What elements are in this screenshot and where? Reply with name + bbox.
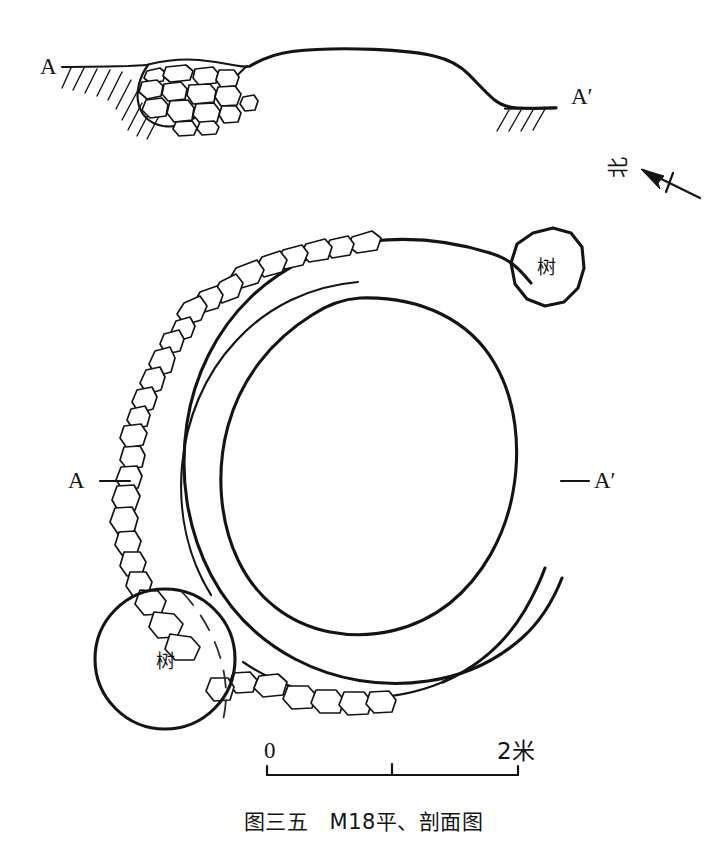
section-label-a: A: [40, 55, 57, 78]
section-fill-surface: [148, 60, 250, 67]
plan-wall-inner-face: [181, 282, 358, 595]
section-ground-left: [68, 65, 148, 67]
north-arrow-label: 北: [608, 157, 629, 178]
section-mound-surface: [250, 49, 556, 109]
figure-caption: 图三五 M18平、剖面图: [0, 805, 727, 835]
scale-bar-group: [267, 764, 518, 775]
plan-outer-arc-se: [443, 568, 545, 682]
plan-stone-ring: [110, 231, 396, 715]
plan-outer-ring: [184, 240, 562, 684]
section-label-a-prime: A′: [571, 85, 593, 108]
tree-upper-right-label: 树: [537, 258, 556, 277]
scale-start-label: 0: [264, 739, 276, 762]
section-hatching-right: [497, 109, 545, 131]
tree-lower-left-label: 树: [156, 652, 175, 671]
north-arrow-group: [641, 169, 700, 198]
scale-end-label: 2米: [497, 740, 535, 763]
section-view-group: [62, 49, 556, 139]
north-arrow-head: [641, 169, 664, 189]
figure-canvas: [0, 0, 727, 865]
plan-inner-chamber: [221, 298, 517, 635]
section-ground-right: [505, 108, 556, 109]
figure-root: A A′ 北 A A′ 树 树 0 2米 图三五 M18平、剖面图: [0, 0, 727, 865]
plan-label-a-prime: A′: [594, 469, 616, 492]
plan-label-a: A: [68, 469, 85, 492]
